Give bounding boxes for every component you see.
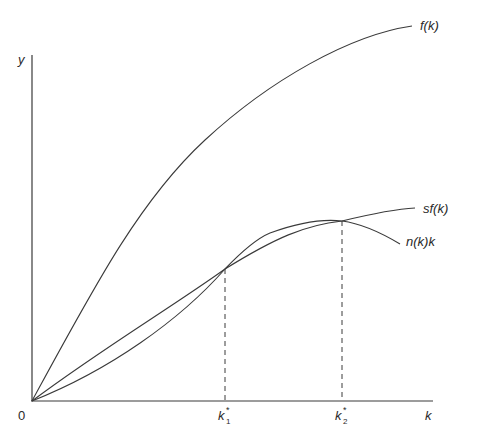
sf-curve	[32, 208, 415, 401]
svg-text:k: k	[218, 408, 226, 423]
k2-star-label: k * 2	[335, 405, 348, 426]
solow-diagram: y k 0 f(k) sf(k) n(k)k k * 1 k * 2	[0, 0, 485, 439]
x-axis-label: k	[425, 408, 433, 423]
svg-text:1: 1	[226, 417, 231, 426]
nk-label: n(k)k	[406, 234, 436, 249]
nk-curve	[32, 220, 400, 401]
f-curve	[32, 26, 412, 401]
k1-star-label: k * 1	[218, 405, 231, 426]
origin-label: 0	[18, 408, 25, 423]
svg-text:2: 2	[343, 417, 348, 426]
svg-text:k: k	[335, 408, 343, 423]
y-axis-label: y	[17, 52, 26, 67]
f-label: f(k)	[420, 18, 439, 33]
svg-text:*: *	[226, 405, 230, 415]
sf-label: sf(k)	[423, 201, 448, 216]
svg-text:*: *	[343, 405, 347, 415]
